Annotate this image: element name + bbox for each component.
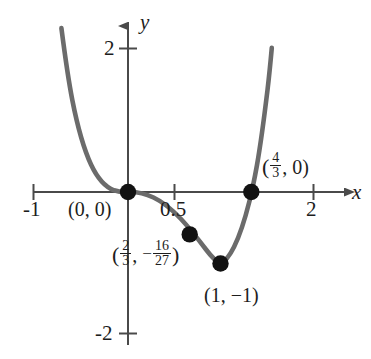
fraction-denominator: 3 [270,165,281,180]
point-label-inflection: (23, −1627) [112,240,179,270]
point-origin [120,184,136,200]
fraction-four-thirds: 43 [270,151,281,181]
point-label-origin: (0, 0) [68,199,111,219]
plot-canvas [0,0,371,359]
y-tick-label--2: -2 [95,323,113,344]
point-label-minimum: (1, −1) [204,285,259,305]
fraction-sixteen-twentysevenths: 1627 [153,239,171,269]
fraction-two-thirds: 23 [120,239,131,269]
fraction-denominator: 3 [120,253,131,268]
minus-sign: − [142,244,152,263]
x-tick-label-2: 2 [306,199,317,220]
y-axis-label: y [140,12,149,33]
x-axis-label: x [352,182,361,203]
x-tick-label--1: -1 [23,199,41,220]
paren-open: ( [262,154,269,179]
function-graph-figure: x y -1 0.5 2 2 -2 (0, 0) (23, −1627) (1,… [0,0,371,359]
function-curve [61,28,271,263]
fraction-numerator: 4 [270,151,281,165]
y-tick-label-2: 2 [104,38,115,59]
point-inflection [182,226,198,242]
point-minimum [212,255,228,271]
point-label-root-4-3: (43, 0) [262,152,309,182]
comma: , [132,244,137,266]
x-tick-label-0.5: 0.5 [160,199,186,220]
fraction-denominator: 27 [153,253,171,268]
fraction-numerator: 2 [120,239,131,253]
root-label-rest: , 0) [282,156,309,178]
fraction-numerator: 16 [153,239,171,253]
paren-open: ( [112,242,119,267]
paren-close: ) [172,242,179,267]
point-root-4-3 [243,184,259,200]
